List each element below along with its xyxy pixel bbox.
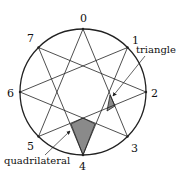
label-2: 2	[151, 87, 158, 100]
label-3: 3	[131, 142, 138, 155]
label-0: 0	[80, 12, 87, 25]
label-4: 4	[79, 160, 86, 173]
label-7: 7	[27, 32, 34, 45]
quadrilateral-arrow	[45, 131, 70, 155]
triangle-label: triangle	[136, 44, 176, 55]
star-diagram: 0 1 2 3 4 5 6 7 triangle quadrilateral	[0, 0, 180, 179]
label-6: 6	[7, 87, 14, 100]
quadrilateral-region	[71, 118, 95, 155]
quadrilateral-label: quadrilateral	[4, 155, 70, 166]
label-5: 5	[27, 140, 34, 153]
